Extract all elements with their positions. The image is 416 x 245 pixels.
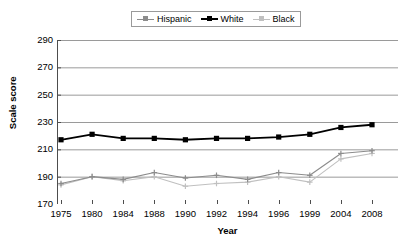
x-tick-label: 1994 [237,209,258,219]
x-tick-label: 1980 [82,209,103,219]
data-point-white [214,136,219,141]
x-axis-tick-labels: 1975198019841988199019921994199619992004… [57,209,398,221]
data-point-white [121,136,126,141]
series-line-hispanic [61,151,372,184]
x-tick-label: 2004 [330,209,351,219]
data-point-black [214,181,220,187]
x-tick-label: 1992 [206,209,227,219]
data-point-hispanic [276,170,282,176]
legend-label-white: White [221,15,244,24]
legend-label-black: Black [273,15,295,24]
x-tick-label: 2008 [361,209,382,219]
chart-figure: Hispanic White Black 2902702502302101901… [0,0,416,245]
legend-marker-white-icon [201,15,218,24]
data-point-white [338,125,343,130]
data-point-black [183,183,189,189]
data-point-hispanic [152,170,158,176]
y-axis-tick-labels: 290270250230210190170 [15,40,53,204]
data-point-white [90,132,95,137]
chart-svg [57,40,398,204]
data-point-white [369,122,374,127]
data-point-white [152,136,157,141]
y-axis-title: Scale score [8,68,18,138]
y-tick-label: 270 [19,63,53,73]
chart-legend: Hispanic White Black [131,11,301,27]
data-point-hispanic [183,175,189,181]
legend-item-hispanic[interactable]: Hispanic [137,15,192,24]
legend-item-white[interactable]: White [201,15,244,24]
legend-marker-hispanic-icon [137,15,154,24]
x-axis-title: Year [57,226,398,236]
y-tick-label: 290 [19,35,53,45]
legend-item-black[interactable]: Black [253,15,295,24]
data-point-white [183,137,188,142]
data-point-white [307,132,312,137]
x-tick-label: 1988 [144,209,165,219]
plot-area [57,40,398,204]
x-tick-label: 1984 [113,209,134,219]
x-tick-label: 1990 [175,209,196,219]
data-point-hispanic [89,174,95,180]
y-tick-label: 230 [19,117,53,127]
data-point-white [245,136,250,141]
legend-marker-black-icon [253,15,270,24]
y-tick-label: 250 [19,90,53,100]
data-point-white [276,134,281,139]
y-tick-label: 170 [19,199,53,209]
data-point-white [58,137,63,142]
data-point-hispanic [369,148,375,154]
x-tick-label: 1996 [268,209,289,219]
x-tick-label: 1975 [50,209,71,219]
legend-label-hispanic: Hispanic [157,15,192,24]
y-tick-label: 210 [19,145,53,155]
y-tick-label: 190 [19,172,53,182]
x-tick-label: 1999 [299,209,320,219]
